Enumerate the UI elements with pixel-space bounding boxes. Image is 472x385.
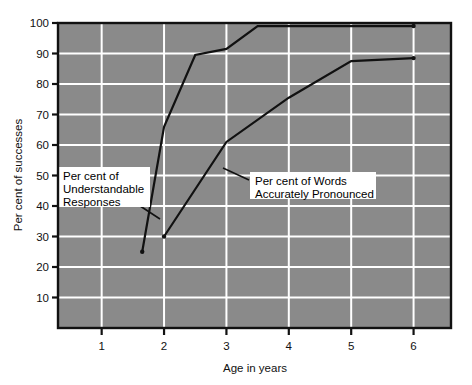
y-tick-label: 80 xyxy=(36,78,49,90)
line-chart-svg: 102030405060708090100 123456 Per cent of… xyxy=(0,0,472,385)
y-tick-label: 10 xyxy=(36,292,49,304)
annotation-line: Understandable xyxy=(63,183,144,195)
series-startpoint-1 xyxy=(162,234,166,238)
y-tick-label: 60 xyxy=(36,139,49,151)
annotation-line: Per cent of xyxy=(63,170,119,182)
y-tick-label: 50 xyxy=(36,170,49,182)
y-tick-label: 90 xyxy=(36,48,49,60)
annotation-line: Accurately Pronounced xyxy=(255,188,374,200)
y-tick-label: 40 xyxy=(36,200,49,212)
chart-figure: 102030405060708090100 123456 Per cent of… xyxy=(0,0,472,385)
series-startpoint-0 xyxy=(140,250,144,254)
series-endpoint-0 xyxy=(411,24,415,28)
annotation-words-accurately-pronounced: Per cent of WordsAccurately Pronounced xyxy=(250,172,376,200)
y-tick-label: 20 xyxy=(36,261,49,273)
x-tick-label: 4 xyxy=(286,340,293,352)
x-tick-label: 2 xyxy=(161,340,167,352)
x-tick-label: 5 xyxy=(348,340,354,352)
y-tick-label: 70 xyxy=(36,109,49,121)
y-tick-label: 30 xyxy=(36,231,49,243)
x-tick-label: 1 xyxy=(98,340,104,352)
x-tick-label: 3 xyxy=(223,340,229,352)
series-endpoint-1 xyxy=(411,56,415,60)
annotation-understandable-responses: Per cent ofUnderstandableResponses xyxy=(58,167,150,208)
annotation-line: Per cent of Words xyxy=(255,175,347,187)
x-axis-title: Age in years xyxy=(223,362,287,374)
y-tick-label: 100 xyxy=(30,17,49,29)
annotation-line: Responses xyxy=(63,196,121,208)
x-tick-label: 6 xyxy=(410,340,416,352)
y-axis-title: Per cent of successes xyxy=(12,119,24,232)
